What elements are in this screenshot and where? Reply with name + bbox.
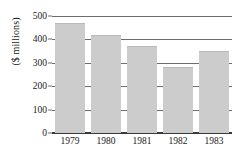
- x-axis-tick-label: 1980: [88, 136, 124, 146]
- y-axis-tick-label: 200: [33, 81, 47, 91]
- x-axis-tick-label: 1982: [160, 136, 196, 146]
- x-axis-tick-label: 1983: [196, 136, 232, 146]
- y-axis-tick-label: 300: [33, 58, 47, 68]
- y-axis-tick-label: 400: [33, 34, 47, 44]
- y-axis-tick-label: 100: [33, 105, 47, 115]
- bar: [163, 67, 193, 133]
- bar: [55, 23, 85, 133]
- y-axis-tick-label: 0: [42, 128, 47, 138]
- y-axis-title: ($ millions): [10, 0, 21, 97]
- x-axis-tick-label: 1979: [52, 136, 88, 146]
- bars-group: [52, 16, 232, 133]
- bar: [127, 46, 157, 133]
- x-axis-tick-labels: 19791980198119821983: [52, 136, 232, 150]
- plot-area: 0100200300400500: [52, 16, 232, 133]
- bar-chart: ($ millions) 0100200300400500 1979198019…: [0, 0, 242, 157]
- y-axis-tick-label: 500: [33, 11, 47, 21]
- x-axis-tick-label: 1981: [124, 136, 160, 146]
- bar: [199, 51, 229, 133]
- bar: [91, 35, 121, 133]
